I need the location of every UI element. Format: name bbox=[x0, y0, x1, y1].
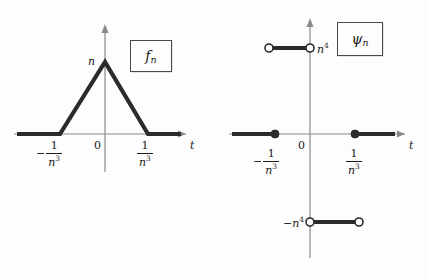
fn-peak-label: n bbox=[88, 56, 95, 67]
fn-tick-left: − 1 n3 bbox=[36, 140, 62, 168]
fn-plot-canvas bbox=[0, 0, 213, 280]
fn-curve-triangular-pulse bbox=[17, 62, 181, 134]
psin-tick-right-numerator: 1 bbox=[348, 148, 359, 160]
psin-name-subscript: n bbox=[362, 37, 368, 48]
psin-open-endpoint-upper-right bbox=[306, 44, 314, 52]
fn-tick-right: 1 n3 bbox=[136, 140, 153, 168]
fn-t-axis-label: t bbox=[190, 140, 194, 151]
psin-open-endpoint-lower-right bbox=[355, 218, 363, 226]
psin-tick-right-denominator: n3 bbox=[346, 163, 362, 176]
psin-closed-endpoint-left bbox=[271, 130, 279, 138]
psin-origin-label: 0 bbox=[298, 140, 305, 151]
fn-tick-right-denominator: n3 bbox=[137, 155, 153, 168]
fn-tick-left-sign: − bbox=[36, 147, 45, 160]
fn-tick-left-denominator: n3 bbox=[46, 155, 62, 168]
fn-tick-left-fraction: 1 n3 bbox=[46, 140, 62, 168]
psin-name-symbol: ψ bbox=[351, 31, 362, 47]
psin-t-axis-label: t bbox=[409, 140, 413, 151]
psin-tick-left-denominator: n3 bbox=[263, 163, 279, 176]
fn-tick-right-fraction: 1 n3 bbox=[137, 140, 153, 168]
psin-open-endpoint-lower-left bbox=[306, 218, 314, 226]
fn-name-box: fn bbox=[130, 40, 172, 72]
psin-t-axis-arrowhead bbox=[397, 131, 405, 138]
panel-psin: n4 −n4 0 t − 1 n3 1 n3 ψn bbox=[213, 0, 427, 280]
psin-lower-value-label: −n4 bbox=[283, 216, 304, 229]
fn-tick-left-numerator: 1 bbox=[49, 140, 60, 152]
psin-open-endpoint-upper-left bbox=[265, 44, 273, 52]
psin-tick-left-numerator: 1 bbox=[266, 148, 277, 160]
psin-tick-left-sign: − bbox=[253, 155, 262, 168]
psin-tick-left-fraction: 1 n3 bbox=[263, 148, 279, 176]
psin-tick-left: − 1 n3 bbox=[253, 148, 279, 176]
psin-tick-right-fraction: 1 n3 bbox=[346, 148, 362, 176]
fn-value-axis-arrowhead bbox=[102, 24, 109, 33]
psin-name-box: ψn bbox=[337, 22, 383, 56]
fn-origin-label: 0 bbox=[94, 140, 101, 151]
figure-root: n 0 t − 1 n3 1 n3 fn bbox=[0, 0, 427, 280]
fn-tick-right-numerator: 1 bbox=[139, 140, 150, 152]
psin-value-axis-arrowhead bbox=[307, 18, 314, 27]
panel-fn: n 0 t − 1 n3 1 n3 fn bbox=[0, 0, 213, 280]
psin-upper-value-label: n4 bbox=[317, 42, 329, 55]
psin-tick-right: 1 n3 bbox=[345, 148, 362, 176]
fn-name-subscript: n bbox=[151, 54, 157, 65]
